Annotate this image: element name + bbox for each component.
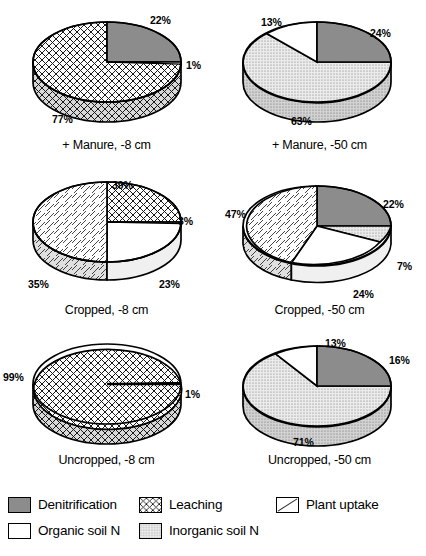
- legend-row: Denitrification Leaching Plant upta: [8, 492, 420, 518]
- legend-item-plant-uptake: Plant uptake: [276, 492, 379, 518]
- pct-label: 13%: [261, 17, 282, 28]
- pct-label: 22%: [383, 199, 404, 210]
- pct-label: 1%: [186, 60, 201, 71]
- denitrification-swatch-icon: [8, 497, 31, 513]
- pct-label: 13%: [325, 338, 346, 349]
- pie-chart-figure: 22% 1% 77% + Manure, -8 cm 13% 24% 63% +…: [0, 0, 426, 556]
- pct-label: 16%: [389, 355, 410, 366]
- pie-chart-uncropped-8cm: 99% 1% Uncropped, -8 cm: [0, 328, 213, 486]
- legend-label: Inorganic soil N: [169, 524, 259, 538]
- leaching-swatch-icon: [139, 497, 162, 513]
- pie-chart-cropped-8cm: 39% 3% 23% 35% Cropped, -8 cm: [0, 166, 213, 324]
- plant-uptake-swatch-icon: [276, 497, 299, 513]
- pie-graphic: [213, 166, 426, 296]
- legend-item-leaching: Leaching: [139, 492, 222, 518]
- legend-label: Leaching: [169, 498, 222, 512]
- legend: Denitrification Leaching Plant upta: [8, 492, 420, 544]
- pct-label: 1%: [185, 389, 200, 400]
- pct-label: 77%: [52, 114, 73, 125]
- pie-graphic: [0, 328, 213, 454]
- chart-caption: Uncropped, -8 cm: [0, 454, 213, 467]
- chart-caption: + Manure, -50 cm: [213, 139, 426, 152]
- pie-graphic: [213, 4, 426, 134]
- pie-graphic: [0, 4, 213, 134]
- pct-label: 63%: [291, 116, 312, 127]
- pct-label: 47%: [225, 209, 246, 220]
- legend-item-denitrification: Denitrification: [8, 492, 117, 518]
- pie-chart-uncropped-50cm: 13% 16% 71% Uncropped, -50 cm: [213, 328, 426, 486]
- chart-caption: Uncropped, -50 cm: [213, 454, 426, 467]
- pie-graphic: [0, 166, 213, 296]
- pie-graphic: [213, 328, 426, 454]
- pct-label: 3%: [178, 216, 193, 227]
- pie-chart-manure-50cm: 13% 24% 63% + Manure, -50 cm: [213, 4, 426, 162]
- chart-caption: + Manure, -8 cm: [0, 139, 213, 152]
- chart-caption: Cropped, -50 cm: [213, 304, 426, 317]
- legend-item-organic-soil-n: Organic soil N: [8, 518, 120, 544]
- pct-label: 71%: [293, 437, 314, 448]
- pct-label: 24%: [370, 28, 391, 39]
- legend-item-inorganic-soil-n: Inorganic soil N: [139, 518, 259, 544]
- legend-row: Organic soil N Inorganic soil N: [8, 518, 420, 544]
- legend-label: Organic soil N: [38, 524, 120, 538]
- pie-chart-cropped-50cm: 47% 22% 7% 24% Cropped, -50 cm: [213, 166, 426, 324]
- pct-label: 23%: [159, 279, 180, 290]
- chart-caption: Cropped, -8 cm: [0, 304, 213, 317]
- pct-label: 24%: [353, 289, 374, 300]
- organic-soil-n-swatch-icon: [8, 523, 31, 539]
- pct-label: 35%: [28, 279, 49, 290]
- pct-label: 22%: [150, 15, 171, 26]
- pct-label: 99%: [3, 372, 24, 383]
- pct-label: 39%: [112, 180, 133, 191]
- pct-label: 7%: [397, 261, 412, 272]
- legend-label: Plant uptake: [306, 498, 379, 512]
- pie-chart-manure-8cm: 22% 1% 77% + Manure, -8 cm: [0, 4, 213, 162]
- inorganic-soil-n-swatch-icon: [139, 523, 162, 539]
- legend-label: Denitrification: [38, 498, 117, 512]
